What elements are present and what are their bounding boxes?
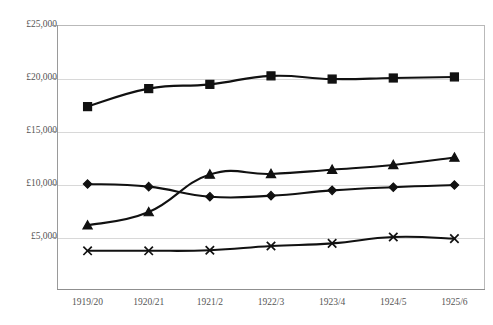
data-point-marker-square	[267, 72, 275, 80]
data-point-marker-diamond	[389, 183, 397, 191]
data-point-marker-diamond	[328, 186, 336, 194]
line-chart: £5,000£10,000£15,000£20,000£25,000 1919/…	[0, 0, 493, 325]
series-layer	[0, 0, 493, 325]
data-point-marker-diamond	[267, 191, 275, 199]
data-point-marker-square	[450, 73, 458, 81]
series-line-cross	[88, 237, 455, 251]
data-point-marker-square	[84, 103, 92, 111]
data-point-marker-diamond	[145, 182, 153, 190]
data-point-marker-diamond	[83, 180, 91, 188]
data-point-marker-square	[145, 85, 153, 93]
data-point-marker-diamond	[206, 193, 214, 201]
data-point-marker-diamond	[450, 181, 458, 189]
data-point-marker-square	[389, 74, 397, 82]
data-point-marker-square	[206, 80, 214, 88]
data-point-marker-square	[328, 75, 336, 83]
